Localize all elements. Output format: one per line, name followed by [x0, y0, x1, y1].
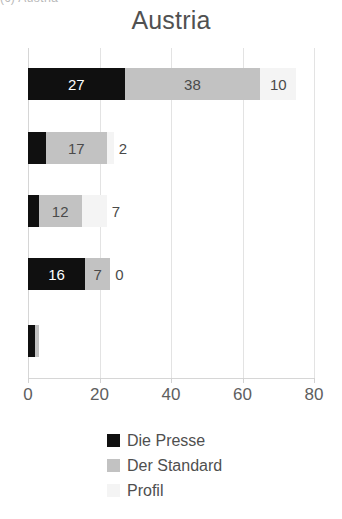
bar-row — [28, 325, 39, 357]
legend-item-0[interactable]: Die Presse — [107, 428, 235, 453]
bar-value-label: 0 — [115, 267, 123, 282]
x-tick-label-60: 60 — [218, 385, 268, 405]
austria-stacked-bar-chart: (c) Austria Austria 273810517231271670 D… — [0, 0, 342, 519]
x-tick-label-0: 0 — [3, 385, 53, 405]
bar-segment-0: 27 — [28, 68, 125, 100]
bar-value-label: 17 — [68, 141, 85, 156]
bar-value-label: 7 — [94, 267, 102, 282]
bar-segment-0: 16 — [28, 258, 85, 290]
bar-segment-2: 7 — [82, 195, 107, 227]
x-tick-label-20: 20 — [75, 385, 125, 405]
bar-value-label: 16 — [48, 267, 65, 282]
x-tick-40 — [171, 378, 172, 383]
x-tick-20 — [100, 378, 101, 383]
x-tick-80 — [314, 378, 315, 383]
bar-segment-1: 7 — [85, 258, 110, 290]
bar-value-label: 7 — [112, 204, 120, 219]
bar-row: 5172 — [28, 132, 114, 164]
bar-segment-2: 10 — [260, 68, 296, 100]
legend-swatch-icon — [107, 434, 120, 447]
bar-row: 1670 — [28, 258, 110, 290]
bar-segment-1: 38 — [125, 68, 261, 100]
bar-value-label: 2 — [119, 141, 127, 156]
bar-segment-1: 12 — [39, 195, 82, 227]
bar-row: 273810 — [28, 68, 296, 100]
bar-segment-0 — [28, 325, 35, 357]
legend-swatch-icon — [107, 484, 120, 497]
x-tick-label-80: 80 — [289, 385, 339, 405]
legend-swatch-icon — [107, 459, 120, 472]
bar-value-label: 12 — [52, 204, 69, 219]
bar-segment-0: 3 — [28, 195, 39, 227]
plot-area: 273810517231271670 — [28, 48, 314, 378]
bar-value-label: 10 — [270, 77, 287, 92]
bar-row: 3127 — [28, 195, 107, 227]
bar-value-label: 38 — [184, 77, 201, 92]
legend-label: Profil — [127, 483, 163, 499]
bar-segment-2: 2 — [107, 132, 114, 164]
figure-caption-fragment: (c) Austria — [0, 0, 180, 5]
x-tick-label-40: 40 — [146, 385, 196, 405]
bar-value-label: 27 — [68, 77, 85, 92]
gridline-80 — [314, 48, 315, 378]
bar-segment-1 — [35, 325, 39, 357]
legend-label: Der Standard — [127, 458, 222, 474]
legend-item-2[interactable]: Profil — [107, 478, 235, 503]
bar-segment-1: 17 — [46, 132, 107, 164]
x-tick-60 — [243, 378, 244, 383]
legend-label: Die Presse — [127, 433, 205, 449]
chart-title: Austria — [0, 6, 342, 35]
chart-legend: Die PresseDer StandardProfil — [0, 428, 342, 503]
x-tick-0 — [28, 378, 29, 383]
bar-segment-0: 5 — [28, 132, 46, 164]
legend-item-1[interactable]: Der Standard — [107, 453, 235, 478]
